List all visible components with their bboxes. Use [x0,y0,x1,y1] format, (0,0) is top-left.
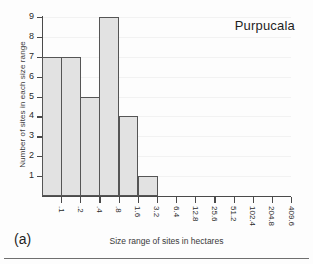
x-axis-tick-label: 25.6 [210,206,218,222]
y-axis-tick [37,37,42,38]
x-axis-tick-label: 1.6 [133,206,141,217]
x-axis-tick [291,197,292,203]
histogram-bar [61,57,81,196]
y-axis-tick-label: 5 [4,92,34,101]
x-axis-tick [119,197,120,203]
x-axis-tick [195,197,196,203]
gridline [43,37,291,38]
panel-caption: (a) [14,231,31,247]
histogram-bar [80,97,100,196]
x-axis-tick-label: .2 [76,206,84,213]
histogram-bar [138,176,158,196]
x-axis-tick [214,197,215,203]
x-axis-tick-label: 12.8 [191,206,199,222]
x-axis-tick [61,197,62,203]
x-axis-tick-label: 102.4 [248,206,256,226]
x-axis-tick-label: .1 [57,206,65,213]
x-axis-tick-label: .8 [114,206,122,213]
y-axis-tick [37,17,42,18]
x-axis-tick-label: .4 [95,206,103,213]
y-axis-tick-label: 2 [4,151,34,160]
x-axis-tick [272,197,273,203]
y-axis-tick-label: 4 [4,111,34,120]
x-axis-title: Size range of sites in hectares [42,236,291,246]
y-axis-tick-label: 9 [4,12,34,21]
y-axis-tick-label: 3 [4,131,34,140]
x-axis-tick [176,197,177,203]
y-axis-tick-label: 8 [4,32,34,41]
y-axis-title: Number of sites in each size range [18,15,27,195]
chart-title: Purpucala [235,18,295,33]
histogram-figure: Number of sites in each size range Purpu… [0,0,313,264]
bottom-rule [4,258,309,259]
histogram-bar [99,17,119,196]
x-axis-tick [157,197,158,203]
y-axis-tick-label: 1 [4,171,34,180]
x-axis-tick [138,197,139,203]
x-axis-tick [234,197,235,203]
x-axis-tick [253,197,254,203]
x-axis-tick-label: 409.6 [287,206,295,226]
x-axis-tick-label: 204.8 [267,206,275,226]
x-axis-tick-label: 51.2 [229,206,237,222]
x-axis-tick-label: 3.2 [152,206,160,217]
y-axis-tick-label: 6 [4,72,34,81]
x-axis-tick-label: 6.4 [172,206,180,217]
y-axis-tick-label: 7 [4,52,34,61]
histogram-bar [42,57,62,196]
gridline [43,17,291,18]
x-axis-tick [80,197,81,203]
x-axis-tick [99,197,100,203]
histogram-bar [119,116,139,196]
